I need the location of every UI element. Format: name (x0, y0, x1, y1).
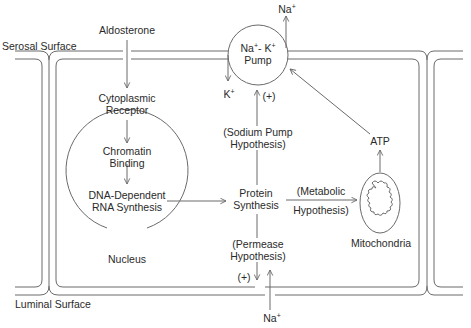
pump-stimulation-label: (+) (261, 90, 277, 102)
pump-label: Na+- K+ Pump (232, 42, 284, 66)
na-efflux-label: Na+ (275, 3, 299, 15)
cytoplasmic-receptor-label: Cytoplasmic Receptor (92, 92, 162, 116)
mitochondria-label: Mitochondria (350, 237, 412, 249)
sodium-pump-hypothesis-label: (Sodium Pump Hypothesis) (218, 126, 298, 150)
metabolic-hypothesis-label: (Metabolic Hypothesis) (288, 185, 354, 216)
dna-rna-synthesis-label: DNA-Dependent RNA Synthesis (82, 189, 172, 213)
atp-label: ATP (367, 135, 393, 147)
chromatin-binding-label: Chromatin Binding (92, 145, 162, 169)
atp-to-pump-arrow (290, 69, 370, 134)
permease-hypothesis-label: (Permease Hypothesis) (226, 238, 290, 262)
protein-synthesis-label: Protein Synthesis (226, 187, 286, 211)
k-influx-label: K+ (220, 88, 238, 100)
mitochondria-cristae (367, 181, 392, 215)
luminal-surface-label: Luminal Surface (15, 298, 91, 310)
permease-stimulation-label: (+) (235, 271, 253, 283)
mitochondria-outline (360, 173, 400, 233)
serosal-surface-label: Serosal Surface (2, 40, 77, 52)
nucleus-label: Nucleus (107, 253, 147, 265)
na-luminal-label: Na+ (260, 312, 284, 324)
aldosterone-label: Aldosterone (97, 24, 157, 36)
